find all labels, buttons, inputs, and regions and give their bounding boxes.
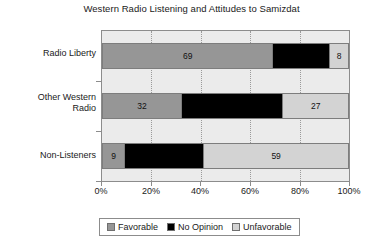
legend-label: Unfavorable bbox=[243, 222, 292, 232]
bar-segment-unfavorable[interactable]: 59 bbox=[203, 143, 349, 169]
bar-segment-favorable[interactable]: 69 bbox=[102, 43, 272, 69]
x-axis-label-60: 60% bbox=[241, 186, 259, 196]
legend-swatch-icon bbox=[107, 223, 115, 231]
y-axis-label-line2: Radio bbox=[72, 103, 96, 113]
bar-row-non-listeners: 9 59 bbox=[102, 143, 349, 169]
y-axis-label-other-western-radio: Other Western Radio bbox=[0, 92, 96, 114]
bar-value-label: 59 bbox=[271, 152, 280, 161]
bars-layer: 69 8 32 27 bbox=[102, 31, 349, 181]
legend-item-unfavorable[interactable]: Unfavorable bbox=[232, 222, 292, 232]
bar-value-label: 32 bbox=[137, 102, 146, 111]
bar-row-other-western-radio: 32 27 bbox=[102, 93, 349, 119]
legend-label: No Opinion bbox=[178, 222, 223, 232]
legend-swatch-icon bbox=[167, 223, 175, 231]
bar-value-label: 8 bbox=[337, 52, 342, 61]
bar-segment-no-opinion[interactable] bbox=[272, 43, 329, 69]
chart-container: Western Radio Listening and Attitudes to… bbox=[0, 0, 383, 241]
x-axis-label-40: 40% bbox=[191, 186, 209, 196]
x-axis-label-80: 80% bbox=[291, 186, 309, 196]
y-axis-label-radio-liberty: Radio Liberty bbox=[0, 48, 96, 59]
legend-label: Favorable bbox=[118, 222, 158, 232]
plot-area: 69 8 32 27 bbox=[101, 30, 350, 182]
bar-segment-unfavorable[interactable]: 8 bbox=[329, 43, 349, 69]
bar-value-label: 27 bbox=[311, 102, 320, 111]
y-axis-label-line1: Radio Liberty bbox=[43, 48, 96, 58]
bar-segment-favorable[interactable]: 32 bbox=[102, 93, 181, 119]
bar-segment-favorable[interactable]: 9 bbox=[102, 143, 124, 169]
legend-item-favorable[interactable]: Favorable bbox=[107, 222, 158, 232]
bar-segment-no-opinion[interactable] bbox=[124, 143, 203, 169]
x-axis-label-0: 0% bbox=[94, 186, 107, 196]
bar-value-label: 69 bbox=[183, 52, 192, 61]
legend-swatch-icon bbox=[232, 223, 240, 231]
legend: Favorable No Opinion Unfavorable bbox=[99, 218, 300, 236]
x-axis-label-20: 20% bbox=[142, 186, 160, 196]
y-axis-label-line1: Other Western bbox=[38, 92, 96, 102]
bar-row-radio-liberty: 69 8 bbox=[102, 43, 349, 69]
y-axis-label-non-listeners: Non-Listeners bbox=[0, 150, 96, 161]
bar-segment-no-opinion[interactable] bbox=[181, 93, 282, 119]
chart-title: Western Radio Listening and Attitudes to… bbox=[0, 3, 383, 14]
x-axis: 0% 20% 40% 60% 80% 100% bbox=[0, 186, 383, 200]
x-axis-label-100: 100% bbox=[337, 186, 360, 196]
bar-segment-unfavorable[interactable]: 27 bbox=[282, 93, 349, 119]
bar-value-label: 9 bbox=[111, 152, 116, 161]
y-axis: Radio Liberty Other Western Radio Non-Li… bbox=[0, 30, 96, 182]
y-axis-label-line1: Non-Listeners bbox=[40, 150, 96, 160]
legend-item-no-opinion[interactable]: No Opinion bbox=[167, 222, 223, 232]
